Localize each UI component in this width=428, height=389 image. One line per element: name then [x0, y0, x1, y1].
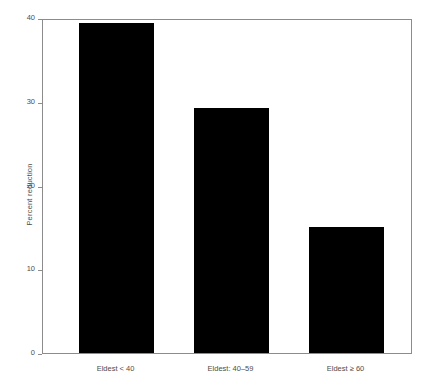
x-axis-category-label: Eldest ≥ 60 [308, 364, 383, 373]
y-axis-tick-label: 20 [27, 181, 35, 190]
y-axis-tick: 0 [0, 354, 42, 355]
y-axis-tick: 40 [0, 19, 42, 20]
y-axis-tick-mark [38, 270, 42, 271]
y-axis-tick-mark [38, 103, 42, 104]
plot-area [43, 20, 411, 353]
bar-chart-figure: Percent reduction 010203040 Eldest < 40E… [0, 0, 428, 389]
plot-frame [42, 19, 412, 354]
y-axis-tick-mark [38, 19, 42, 20]
y-axis-tick: 30 [0, 103, 42, 104]
y-axis-tick-mark [38, 187, 42, 188]
y-axis-tick-label: 40 [27, 13, 35, 22]
bar [309, 227, 384, 353]
x-axis-category-label: Eldest < 40 [78, 364, 153, 373]
y-axis-title: Percent reduction [22, 0, 36, 389]
y-axis-tick-label: 10 [27, 264, 35, 273]
bar [79, 23, 154, 353]
y-axis-tick: 20 [0, 187, 42, 188]
y-axis-tick-label: 0 [31, 348, 35, 357]
x-axis-category-label: Eldest: 40–59 [193, 364, 268, 373]
bar [194, 108, 269, 353]
y-axis-tick-label: 30 [27, 97, 35, 106]
y-axis-tick: 10 [0, 270, 42, 271]
y-axis-tick-mark [38, 354, 42, 355]
